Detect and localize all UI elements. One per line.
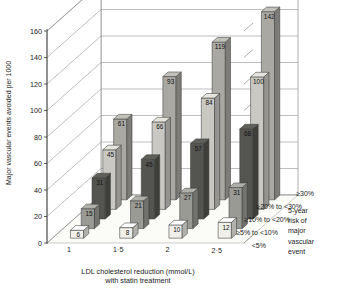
legend-entry-4: <5%: [252, 242, 266, 249]
bar-value-label: 142: [264, 13, 275, 20]
y-tick-label: 100: [30, 106, 42, 115]
bar-side-face: [275, 7, 280, 200]
x-tick-label: 1: [67, 245, 71, 254]
y-tick-label: 0: [38, 239, 42, 248]
bar-value-label: 45: [107, 151, 115, 158]
bar-value-label: 57: [195, 145, 203, 152]
legend-entry-2: ≥10% to <20%: [244, 216, 290, 223]
bar-value-label: 61: [118, 120, 126, 127]
legend-title-line-3: vascular: [288, 238, 315, 245]
bar-value-label: 84: [206, 99, 214, 106]
legend-entry-3: ≥5% to <10%: [236, 229, 278, 236]
bar-side-face: [127, 114, 132, 199]
bar-value-label: 10: [173, 226, 181, 233]
bar-side-face: [116, 145, 121, 209]
bar-side-face: [144, 196, 149, 228]
y-tick-label: 20: [34, 212, 42, 221]
y-axis-title: Major vascular events avoided per 1000: [5, 61, 13, 185]
legend-title-line-2: major: [288, 227, 306, 235]
bar-value-label: 15: [85, 210, 93, 217]
x-tick-label: 2: [166, 245, 170, 254]
bar-side-face: [215, 94, 220, 210]
x-tick-label: 2·5: [212, 246, 222, 255]
bar-side-face: [264, 72, 269, 209]
bar-value-label: 12: [222, 224, 230, 231]
bar-value-label: 100: [253, 78, 264, 85]
bar-side-face: [193, 188, 198, 228]
bar-value-label: 31: [233, 189, 241, 196]
bar-side-face: [165, 117, 170, 209]
y-tick-label: 140: [30, 53, 42, 62]
bar-side-face: [105, 173, 110, 219]
bar-value-label: 21: [135, 202, 143, 209]
bar-side-face: [154, 155, 159, 219]
y-tick-label: 40: [34, 186, 42, 195]
bar-value-label: 27: [184, 194, 192, 201]
chart-container: 0204060801001201401601421199361100846645…: [0, 0, 340, 291]
x-tick-label: 1·5: [113, 245, 123, 254]
bar-value-label: 6: [76, 231, 80, 238]
legend-title-line-1: risk of: [288, 217, 307, 224]
bar-value-label: 45: [146, 161, 154, 168]
y-tick-label: 160: [30, 27, 42, 36]
bar-value-label: 93: [167, 78, 175, 85]
legend-title-line-4: event: [288, 248, 305, 255]
x-axis-title-line2: with statin treatment: [104, 276, 170, 285]
bar-side-face: [225, 38, 230, 200]
y-tick-label: 120: [30, 80, 42, 89]
bar-value-label: 31: [96, 179, 104, 186]
y-tick-label: 80: [34, 133, 42, 142]
legend-title-line-0: 5-year: [288, 207, 309, 215]
bar-side-face: [176, 72, 181, 200]
bar-side-face: [204, 139, 209, 219]
x-axis-title-line1: LDL cholesterol reduction (mmol/L): [81, 267, 194, 276]
y-tick-label: 60: [34, 159, 42, 168]
bar-value-label: 66: [156, 123, 164, 130]
bar-value-label: 119: [215, 43, 226, 50]
legend-entry-0: ≥30%: [296, 190, 314, 197]
bar-value-label: 68: [244, 130, 252, 137]
bar-value-label: 8: [126, 229, 130, 236]
bar-chart-3d: 0204060801001201401601421199361100846645…: [0, 0, 340, 291]
